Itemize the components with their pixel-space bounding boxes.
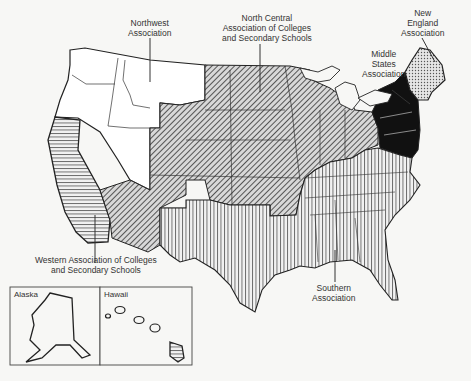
label-alaska: Alaska bbox=[14, 290, 38, 299]
label-northwest: Northwest Association bbox=[128, 18, 171, 38]
region-western bbox=[48, 117, 110, 243]
label-new-england: New England Association bbox=[401, 8, 444, 38]
label-middle-states: Middle States Association bbox=[362, 49, 405, 79]
region-new-england bbox=[405, 48, 445, 100]
label-hawaii: Hawaii bbox=[104, 290, 128, 299]
label-western: Western Association of Colleges and Seco… bbox=[35, 255, 157, 275]
label-north-central: North Central Association of Colleges an… bbox=[222, 13, 312, 43]
label-southern: Southern Association bbox=[312, 283, 355, 303]
